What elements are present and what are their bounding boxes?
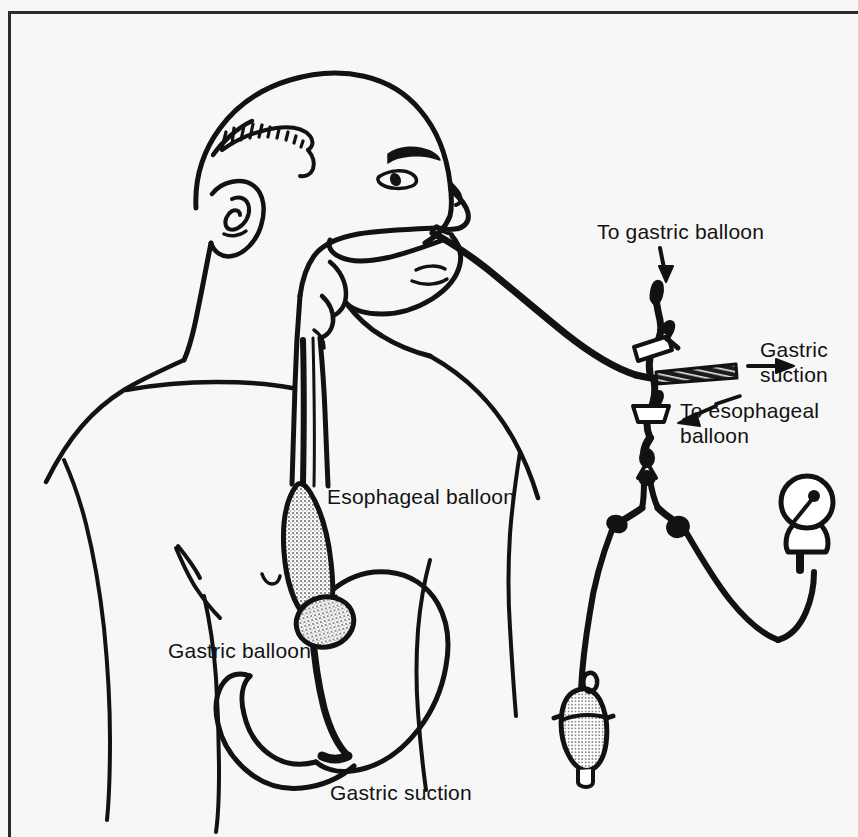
label-gastric-balloon: Gastric balloon xyxy=(168,638,311,663)
y-connector xyxy=(604,470,693,541)
intra-esophageal-tube xyxy=(303,338,314,486)
label-to-esophageal-balloon: To esophageal balloon xyxy=(680,398,819,448)
label-esophageal-balloon: Esophageal balloon xyxy=(327,484,515,509)
pressure-gauge xyxy=(781,476,833,570)
label-gastric-suction-bottom: Gastric suction xyxy=(330,780,472,805)
tube-to-inflation-bulb xyxy=(581,530,612,690)
gastric-suction-port xyxy=(656,364,737,384)
label-to-gastric-balloon: To gastric balloon xyxy=(597,219,764,244)
figure-container: To gastric balloon Gastric suction To es… xyxy=(0,0,858,837)
nasal-tube-insertion xyxy=(433,233,636,375)
arrow-to-gastric-balloon xyxy=(659,248,673,282)
inflation-bulb xyxy=(554,673,613,787)
gastric-balloon-clamp xyxy=(634,321,678,361)
label-gastric-suction-right: Gastric suction xyxy=(760,337,828,387)
patient-head-profile xyxy=(184,73,468,360)
